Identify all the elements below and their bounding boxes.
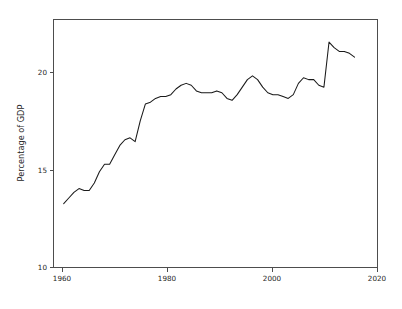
x-tick-label-1960: 1960 (53, 274, 72, 283)
y-axis-title: Percentage of GDP (16, 105, 26, 182)
x-tick-label-1980: 1980 (158, 274, 177, 283)
y-tick-label-15: 15 (38, 166, 47, 175)
x-tick-label-2000: 2000 (263, 274, 282, 283)
y-tick-label-20: 20 (38, 68, 48, 77)
line-chart-canvas: 10 15 20 1960 1980 2000 2020 Percentage … (0, 0, 402, 309)
y-tick-label-10: 10 (38, 263, 48, 272)
figure-background (0, 0, 402, 309)
chart-figure: 10 15 20 1960 1980 2000 2020 Percentage … (0, 0, 402, 309)
x-tick-label-2020: 2020 (368, 274, 387, 283)
